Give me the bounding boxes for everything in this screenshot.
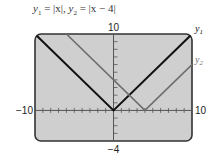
ymax-label: 10 <box>108 22 120 33</box>
xmax-label: 10 <box>195 105 207 116</box>
series-label-y1: y1 <box>194 23 203 36</box>
ymin-label: −4 <box>108 144 120 155</box>
chart-svg: 10 −4 −10 10 y1y2 <box>0 0 213 156</box>
xmin-label: −10 <box>16 105 33 116</box>
series-label-y2: y2 <box>194 54 203 67</box>
series-labels: y1y2 <box>194 23 203 67</box>
